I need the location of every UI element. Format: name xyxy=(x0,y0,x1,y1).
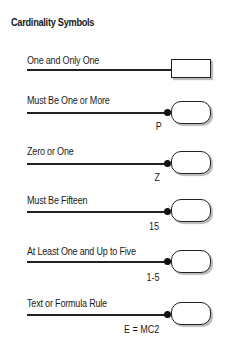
row-label: Zero or One xyxy=(27,146,74,157)
cardinality-annotation: 15 xyxy=(149,221,159,232)
cardinality-annotation: E = MC2 xyxy=(124,324,159,335)
cardinality-dot-icon xyxy=(164,258,171,265)
connector-line xyxy=(27,112,167,114)
connector-line xyxy=(27,163,167,165)
connector-line xyxy=(27,261,167,263)
cardinality-dot-icon xyxy=(164,208,171,215)
cardinality-dot-icon xyxy=(164,109,171,116)
row-label: One and Only One xyxy=(27,55,99,66)
cardinality-dot-icon xyxy=(164,311,171,318)
entity-rounded-box xyxy=(171,151,211,174)
connector-line xyxy=(27,314,167,316)
entity-rounded-box xyxy=(171,250,211,273)
entity-rounded-box xyxy=(171,101,211,124)
cardinality-annotation: P xyxy=(156,121,162,132)
connector-line xyxy=(27,211,167,213)
cardinality-annotation: Z xyxy=(155,172,160,183)
entity-rounded-box xyxy=(171,199,211,222)
connector-line xyxy=(27,69,171,71)
row-label: Must Be One or More xyxy=(27,95,110,106)
cardinality-annotation: 1-5 xyxy=(146,272,159,283)
entity-rectangle xyxy=(171,59,211,78)
row-label: Must Be Fifteen xyxy=(27,195,87,206)
row-label: At Least One and Up to Five xyxy=(27,246,136,257)
cardinality-dot-icon xyxy=(164,160,171,167)
row-label: Text or Formula Rule xyxy=(27,298,107,309)
diagram-title: Cardinality Symbols xyxy=(11,17,94,28)
entity-rounded-box xyxy=(171,302,211,325)
